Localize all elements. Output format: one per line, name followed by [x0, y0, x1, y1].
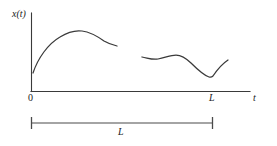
curve-segment-2: [142, 55, 228, 77]
figure-container: x(t) 0 L t L: [0, 0, 277, 146]
curve-segment-1: [33, 31, 117, 73]
x-axis-label: t: [253, 93, 256, 103]
origin-label: 0: [28, 93, 33, 103]
dimension-bar-label: L: [118, 127, 124, 137]
plot-canvas: [0, 0, 277, 146]
x-axis-tick-label-L: L: [209, 93, 215, 103]
y-axis-label: x(t): [12, 9, 26, 19]
